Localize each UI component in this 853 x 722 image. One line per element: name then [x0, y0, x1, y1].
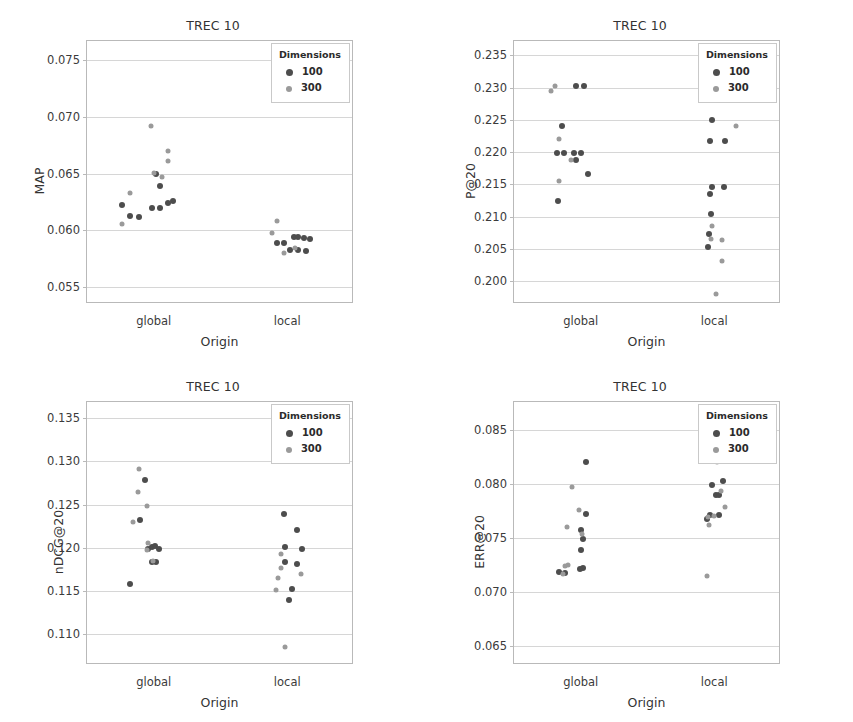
y-tick-label: 0.200 — [474, 274, 507, 288]
data-point — [578, 547, 584, 553]
data-point — [569, 157, 574, 162]
legend-dot-icon — [286, 69, 293, 76]
y-tick-mark — [510, 249, 514, 250]
data-point — [136, 214, 142, 220]
y-tick-label: 0.130 — [47, 454, 80, 468]
data-point — [156, 546, 162, 552]
data-point — [294, 561, 300, 567]
plot-area: 0.0550.0600.0650.0700.075globallocalDime… — [86, 40, 353, 303]
legend-entry-label: 100 — [729, 65, 750, 80]
data-point — [706, 522, 711, 527]
chart-panel-p20: TREC 10P@200.2000.2050.2100.2150.2200.22… — [427, 0, 853, 361]
data-point — [273, 587, 278, 592]
x-axis-label: Origin — [86, 334, 353, 349]
y-tick-label: 0.125 — [47, 498, 80, 512]
data-point — [704, 573, 709, 578]
x-axis-label: Origin — [86, 695, 353, 710]
data-point — [553, 84, 558, 89]
data-point — [131, 519, 136, 524]
y-tick-mark — [510, 430, 514, 431]
gridline — [514, 120, 779, 121]
legend-entry[interactable]: 100 — [706, 64, 768, 81]
y-tick-label: 0.115 — [47, 584, 80, 598]
data-point — [274, 240, 280, 246]
y-tick-label: 0.220 — [474, 145, 507, 159]
data-point — [573, 83, 579, 89]
data-point — [564, 525, 569, 530]
figure-grid: TREC 10MAP0.0550.0600.0650.0700.075globa… — [0, 0, 853, 722]
data-point — [718, 489, 723, 494]
legend-entry-label: 100 — [302, 426, 323, 441]
y-tick-label: 0.065 — [474, 639, 507, 653]
data-point — [151, 170, 156, 175]
y-tick-label: 0.120 — [47, 541, 80, 555]
legend-entry[interactable]: 100 — [706, 425, 768, 442]
y-tick-label: 0.060 — [47, 223, 80, 237]
y-tick-mark — [83, 461, 87, 462]
y-tick-mark — [83, 60, 87, 61]
legend-entry[interactable]: 100 — [279, 425, 341, 442]
y-tick-mark — [510, 592, 514, 593]
y-tick-mark — [83, 418, 87, 419]
data-point — [557, 178, 562, 183]
y-tick-mark — [83, 174, 87, 175]
legend-entry[interactable]: 300 — [706, 441, 768, 458]
y-tick-label: 0.080 — [474, 477, 507, 491]
y-tick-label: 0.085 — [474, 423, 507, 437]
gridline — [87, 505, 352, 506]
data-point — [136, 467, 141, 472]
data-point — [137, 517, 143, 523]
data-point — [303, 248, 309, 254]
x-tick-label: local — [701, 675, 728, 689]
legend: Dimensions100300 — [271, 404, 350, 464]
y-tick-label: 0.230 — [474, 81, 507, 95]
data-point — [722, 138, 728, 144]
legend-entry-label: 100 — [729, 426, 750, 441]
y-tick-label: 0.215 — [474, 177, 507, 191]
data-point — [281, 511, 287, 517]
x-tick-label: global — [563, 675, 598, 689]
data-point — [705, 515, 710, 520]
x-tick-label: local — [274, 314, 301, 328]
y-tick-label: 0.135 — [47, 411, 80, 425]
legend-entry[interactable]: 300 — [706, 80, 768, 97]
legend-entry[interactable]: 300 — [279, 441, 341, 458]
gridline — [87, 591, 352, 592]
data-point — [165, 148, 170, 153]
legend-title: Dimensions — [279, 409, 341, 423]
chart-panel-ndcg20: TREC 10nDCG@200.1100.1150.1200.1250.1300… — [0, 361, 426, 722]
y-tick-mark — [510, 88, 514, 89]
data-point — [585, 171, 591, 177]
gridline — [87, 117, 352, 118]
x-axis-label: Origin — [513, 695, 780, 710]
data-point — [292, 246, 297, 251]
y-tick-mark — [510, 484, 514, 485]
data-point — [561, 150, 567, 156]
plot-area: 0.2000.2050.2100.2150.2200.2250.2300.235… — [513, 40, 780, 303]
data-point — [119, 221, 124, 226]
data-point — [709, 482, 715, 488]
legend-dot-icon — [286, 430, 293, 437]
y-tick-label: 0.070 — [474, 585, 507, 599]
data-point — [165, 159, 170, 164]
data-point — [714, 291, 719, 296]
legend-entry[interactable]: 300 — [279, 80, 341, 97]
data-point — [554, 150, 560, 156]
data-point — [278, 551, 283, 556]
legend-dot-icon — [286, 86, 292, 92]
data-point — [275, 575, 280, 580]
data-point — [709, 184, 715, 190]
gridline — [514, 249, 779, 250]
legend-entry[interactable]: 100 — [279, 64, 341, 81]
data-point — [282, 250, 287, 255]
legend-dot-icon — [713, 430, 720, 437]
gridline — [87, 548, 352, 549]
chart-title: TREC 10 — [427, 379, 853, 394]
plot-area: 0.1100.1150.1200.1250.1300.135globalloca… — [86, 401, 353, 664]
data-point — [286, 597, 292, 603]
data-point — [278, 566, 283, 571]
y-tick-label: 0.070 — [47, 110, 80, 124]
y-axis-label: MAP — [32, 167, 47, 194]
data-point — [708, 211, 714, 217]
legend: Dimensions100300 — [698, 404, 777, 464]
